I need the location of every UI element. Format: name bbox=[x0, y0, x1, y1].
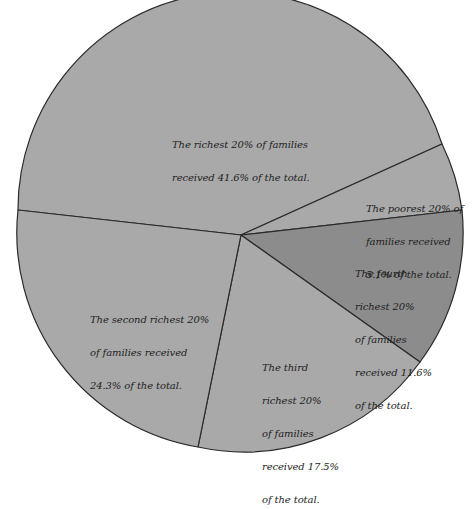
label-second-line1: The second richest 20% bbox=[90, 314, 209, 325]
label-fourth-richest: The fourth richest 20% of families recei… bbox=[355, 246, 432, 422]
label-third-line3: of families bbox=[262, 428, 339, 439]
label-third-richest: The third richest 20% of families receiv… bbox=[262, 340, 339, 509]
label-poorest-line1: The poorest 20% of bbox=[366, 203, 463, 214]
label-second-richest: The second richest 20% of families recei… bbox=[90, 292, 209, 402]
label-fourth-line2: richest 20% bbox=[355, 301, 432, 312]
label-richest-line1: The richest 20% of families bbox=[172, 139, 310, 150]
label-fourth-line4: received 11.6% bbox=[355, 367, 432, 378]
label-second-line2: of families received bbox=[90, 347, 209, 358]
label-third-line2: richest 20% bbox=[262, 395, 339, 406]
label-second-line3: 24.3% of the total. bbox=[90, 380, 209, 391]
label-richest: The richest 20% of families received 41.… bbox=[172, 117, 310, 194]
label-third-line5: of the total. bbox=[262, 494, 339, 505]
label-fourth-line3: of families bbox=[355, 334, 432, 345]
label-fourth-line1: The fourth bbox=[355, 268, 432, 279]
label-fourth-line5: of the total. bbox=[355, 400, 432, 411]
label-richest-line2: received 41.6% of the total. bbox=[172, 172, 310, 183]
label-third-line4: received 17.5% bbox=[262, 461, 339, 472]
label-third-line1: The third bbox=[262, 362, 339, 373]
